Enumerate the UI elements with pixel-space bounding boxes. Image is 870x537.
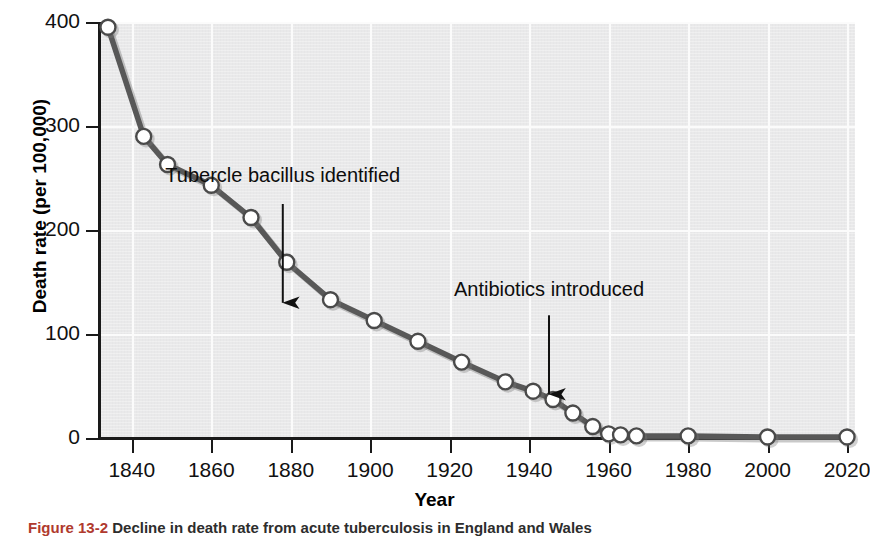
gridline-horizontal xyxy=(100,334,855,336)
x-tick-label: 1860 xyxy=(188,458,235,482)
plot-area xyxy=(100,22,855,438)
gridline-vertical xyxy=(529,22,531,438)
figure-caption: Figure 13-2 Decline in death rate from a… xyxy=(28,518,858,537)
gridline-vertical xyxy=(847,22,849,438)
x-tick-label: 1940 xyxy=(506,458,553,482)
x-tick-label: 1880 xyxy=(267,458,314,482)
gridline-vertical xyxy=(291,22,293,438)
x-tick-mark xyxy=(529,440,531,453)
annotation-label: Antibiotics introduced xyxy=(454,278,644,301)
gridline-vertical xyxy=(211,22,213,438)
y-tick-mark xyxy=(86,126,99,128)
x-tick-mark xyxy=(291,440,293,453)
caption-number: Figure 13-2 xyxy=(28,519,108,536)
y-tick-mark xyxy=(86,438,99,440)
x-axis-title: Year xyxy=(0,489,869,511)
x-tick-mark xyxy=(688,440,690,453)
x-tick-mark xyxy=(847,440,849,453)
y-tick-label: 0 xyxy=(68,425,80,449)
x-tick-label: 1920 xyxy=(426,458,473,482)
x-tick-mark xyxy=(132,440,134,453)
x-tick-mark xyxy=(450,440,452,453)
x-tick-mark xyxy=(370,440,372,453)
x-tick-label: 2020 xyxy=(824,458,870,482)
x-tick-mark xyxy=(609,440,611,453)
gridline-vertical xyxy=(688,22,690,438)
caption-text: Decline in death rate from acute tubercu… xyxy=(112,519,592,536)
x-tick-label: 1980 xyxy=(665,458,712,482)
y-tick-mark xyxy=(86,230,99,232)
y-axis-title: Death rate (per 100,000) xyxy=(29,16,51,396)
gridline-horizontal xyxy=(100,22,855,24)
gridline-vertical xyxy=(132,22,134,438)
x-tick-label: 1960 xyxy=(585,458,632,482)
gridline-horizontal xyxy=(100,230,855,232)
y-tick-mark xyxy=(86,22,99,24)
gridline-vertical xyxy=(450,22,452,438)
x-tick-label: 1900 xyxy=(347,458,394,482)
annotation-label: Tubercle bacillus identified xyxy=(165,164,400,187)
x-tick-mark xyxy=(768,440,770,453)
gridline-vertical xyxy=(609,22,611,438)
x-tick-label: 2000 xyxy=(744,458,791,482)
y-tick-mark xyxy=(86,334,99,336)
gridline-horizontal xyxy=(100,126,855,128)
gridline-vertical xyxy=(370,22,372,438)
x-tick-mark xyxy=(211,440,213,453)
gridline-vertical xyxy=(768,22,770,438)
x-tick-label: 1840 xyxy=(108,458,155,482)
